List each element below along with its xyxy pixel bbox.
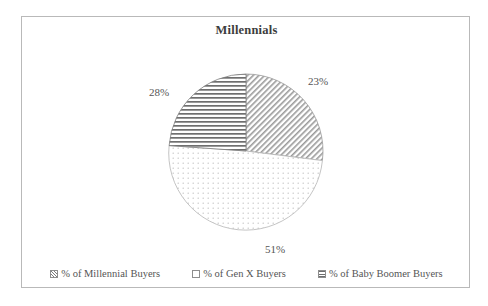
pie-label-millennial: 23%: [308, 75, 328, 87]
pie-chart: 23% 28% 51%: [22, 17, 471, 289]
chart-frame: Millennials: [21, 16, 470, 288]
legend-item-boomer[interactable]: % of Baby Boomer Buyers: [318, 268, 443, 279]
legend-label-genx: % of Gen X Buyers: [203, 268, 286, 279]
diagonal-hatch-swatch-icon: [50, 270, 58, 278]
pie-slice-boomer: [169, 74, 246, 151]
chart-legend: % of Millennial Buyers % of Gen X Buyers…: [22, 268, 471, 279]
legend-item-millennial[interactable]: % of Millennial Buyers: [50, 268, 160, 279]
pie-label-boomer: 28%: [149, 86, 169, 98]
pie-slice-genx: [169, 146, 323, 231]
pie-label-genx: 51%: [265, 243, 285, 255]
white-dotted-swatch-icon: [192, 270, 200, 278]
legend-item-genx[interactable]: % of Gen X Buyers: [192, 268, 286, 279]
legend-label-boomer: % of Baby Boomer Buyers: [329, 268, 443, 279]
horizontal-lines-swatch-icon: [318, 270, 326, 278]
pie-svg: [22, 17, 471, 289]
legend-label-millennial: % of Millennial Buyers: [61, 268, 160, 279]
